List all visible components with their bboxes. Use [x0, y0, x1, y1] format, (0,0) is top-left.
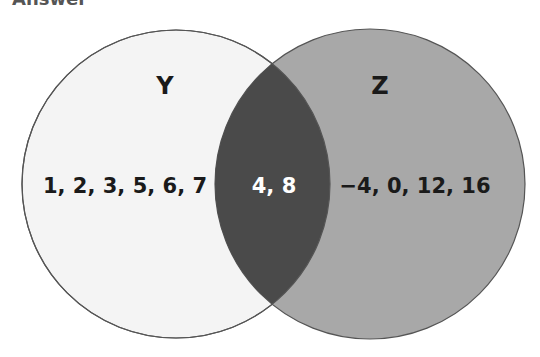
set-z-label: Z — [371, 72, 388, 100]
set-y-only-elements: 1, 2, 3, 5, 6, 7 — [43, 174, 207, 198]
set-z-only-elements: −4, 0, 12, 16 — [339, 174, 490, 198]
intersection-elements: 4, 8 — [252, 174, 297, 198]
set-y-label: Y — [155, 72, 174, 100]
venn-diagram: Y Z 1, 2, 3, 5, 6, 7 4, 8 −4, 0, 12, 16 — [0, 0, 540, 357]
